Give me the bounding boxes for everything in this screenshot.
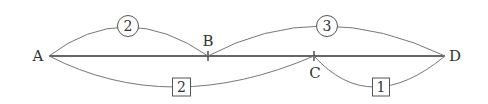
node-label-b: B [202, 32, 213, 50]
weight-b-d: 3 [323, 18, 332, 34]
weight-marker-b-d: 3 [317, 16, 338, 37]
node-label-a: A [32, 47, 44, 65]
weight-marker-c-d: 1 [373, 78, 390, 96]
weight-marker-a-b: 2 [118, 16, 139, 37]
weight-a-c: 2 [177, 79, 186, 95]
weight-marker-a-c: 2 [173, 78, 191, 96]
network-diagram: 2 3 2 1 A B C D [0, 0, 488, 104]
node-label-c: C [309, 64, 320, 82]
weight-a-b: 2 [124, 18, 133, 34]
node-label-d: D [449, 47, 461, 65]
weight-c-d: 1 [377, 79, 386, 95]
